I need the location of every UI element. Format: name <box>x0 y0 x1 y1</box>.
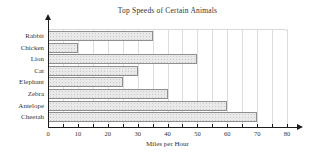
category-label-chicken: Chicken <box>0 43 44 53</box>
category-label-cheetah: Cheetah <box>0 112 44 122</box>
x-axis-tick-mark <box>168 124 169 127</box>
bar-chart-figure: Top Speeds of Certain Animals RabbitChic… <box>0 0 316 155</box>
x-axis-tick-mark <box>227 124 228 127</box>
gridline <box>287 29 288 127</box>
x-axis-tick-mark <box>78 124 79 127</box>
category-label-lion: Lion <box>0 54 44 64</box>
bar-cheetah <box>48 112 257 122</box>
x-axis-tick-mark <box>93 124 94 127</box>
x-axis-tick-mark <box>242 124 243 127</box>
bar-elephant <box>48 77 123 87</box>
x-axis-tick-label-10: 10 <box>68 130 88 137</box>
category-label-cat: Cat <box>0 66 44 76</box>
x-axis-tick-mark <box>48 124 49 127</box>
category-label-rabbit: Rabbit <box>0 31 44 41</box>
x-axis-tick-mark <box>138 124 139 127</box>
x-axis-tick-label-20: 20 <box>98 130 118 137</box>
y-axis-line <box>48 20 49 127</box>
chart-title: Top Speeds of Certain Animals <box>48 6 287 15</box>
x-axis-tick-mark <box>287 124 288 127</box>
x-axis-tick-mark <box>272 124 273 127</box>
bar-rabbit <box>48 31 153 41</box>
x-axis-tick-mark <box>63 124 64 127</box>
bar-chicken <box>48 43 78 53</box>
x-axis-tick-mark <box>182 124 183 127</box>
x-axis-tick-label-60: 60 <box>217 130 237 137</box>
bar-zebra <box>48 89 168 99</box>
x-axis-tick-mark <box>197 124 198 127</box>
x-axis-tick-mark <box>257 124 258 127</box>
category-label-elephant: Elephant <box>0 77 44 87</box>
x-axis-tick-label-0: 0 <box>38 130 58 137</box>
y-axis-arrow-icon <box>45 14 51 20</box>
category-label-zebra: Zebra <box>0 89 44 99</box>
x-axis-tick-label-70: 70 <box>247 130 267 137</box>
x-axis-arrow-icon <box>297 124 303 130</box>
x-axis-tick-mark <box>123 124 124 127</box>
x-axis-tick-label-80: 80 <box>277 130 297 137</box>
x-axis-tick-mark <box>108 124 109 127</box>
x-axis-label: Miles per Hour <box>48 140 287 148</box>
x-axis-tick-label-40: 40 <box>158 130 178 137</box>
x-axis-line <box>48 127 298 128</box>
bar-cat <box>48 66 138 76</box>
x-axis-tick-label-30: 30 <box>128 130 148 137</box>
x-axis-tick-mark <box>212 124 213 127</box>
x-axis-tick-mark <box>153 124 154 127</box>
x-axis-tick-label-50: 50 <box>187 130 207 137</box>
bar-antelope <box>48 101 227 111</box>
category-label-antelope: Antelope <box>0 101 44 111</box>
bar-lion <box>48 54 197 64</box>
